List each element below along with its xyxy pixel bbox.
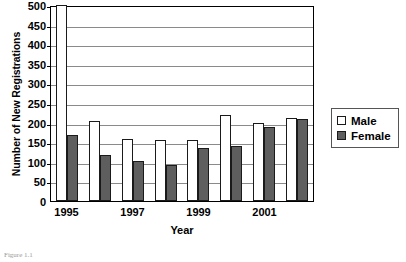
legend-item: Male — [337, 113, 391, 128]
x-tick-label: 2001 — [252, 206, 276, 218]
bar-group — [215, 7, 248, 201]
bar-male — [220, 115, 231, 201]
legend-swatch-icon — [337, 116, 346, 125]
bar-female — [297, 119, 308, 201]
bar-male — [187, 140, 198, 201]
bar-group — [248, 7, 281, 201]
legend-swatch-icon — [337, 131, 346, 140]
y-axis-tick-labels: 050100150200250300350400450500 — [14, 6, 46, 202]
x-axis-tick-labels: 1995199719992001 — [50, 206, 314, 222]
bar-female — [231, 146, 242, 201]
x-tick-label: 1995 — [54, 206, 78, 218]
bar-group — [182, 7, 215, 201]
y-tick-label: 250 — [28, 99, 46, 110]
bar-female — [100, 155, 111, 201]
bar-male — [89, 121, 100, 201]
legend-item: Female — [337, 128, 391, 143]
y-tick-label: 400 — [28, 40, 46, 51]
bar-group — [84, 7, 117, 201]
figure-caption: Figure 1.1 — [4, 251, 33, 259]
y-tick-label: 450 — [28, 20, 46, 31]
y-tick-label: 500 — [28, 1, 46, 12]
chart-legend: MaleFemale — [331, 108, 399, 148]
legend-label: Female — [351, 130, 391, 142]
plot-area — [50, 6, 314, 202]
y-tick-label: 350 — [28, 59, 46, 70]
bar-female — [67, 135, 78, 201]
bar-group — [51, 7, 84, 201]
bar-female — [166, 165, 177, 201]
bar-group — [117, 7, 150, 201]
y-tick-label: 100 — [28, 157, 46, 168]
x-tick-label: 1997 — [120, 206, 144, 218]
bar-male — [122, 139, 133, 201]
bar-female — [133, 161, 144, 201]
bar-group — [280, 7, 313, 201]
bar-female — [264, 127, 275, 201]
bar-male — [155, 140, 166, 201]
legend-label: Male — [351, 115, 377, 127]
bar-male — [286, 118, 297, 201]
bar-group — [149, 7, 182, 201]
x-axis-title: Year — [50, 224, 314, 236]
y-tick-label: 0 — [40, 197, 46, 208]
y-tick-label: 300 — [28, 79, 46, 90]
chart-figure: Number of New Registrations 050100150200… — [0, 0, 406, 262]
bar-female — [198, 148, 209, 201]
bar-male — [56, 5, 67, 201]
x-tick-label: 1999 — [186, 206, 210, 218]
y-tick-label: 150 — [28, 138, 46, 149]
bar-groups — [51, 7, 313, 201]
bar-male — [253, 123, 264, 201]
y-tick-label: 50 — [34, 177, 46, 188]
y-tick-label: 200 — [28, 118, 46, 129]
